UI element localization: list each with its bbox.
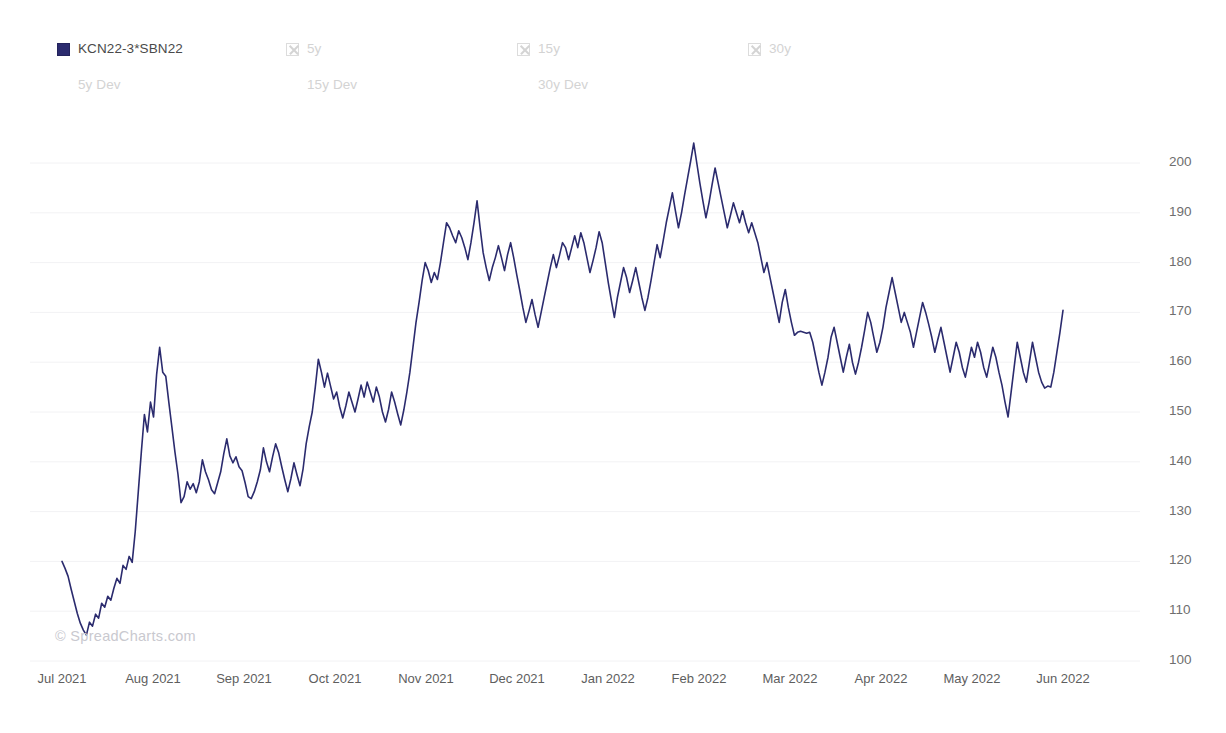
legend-item-30y[interactable]: 30y — [748, 38, 791, 60]
legend-item-30y-dev[interactable]: 30y Dev — [517, 74, 588, 96]
legend-row-deviations: 5y Dev15y Dev30y Dev — [0, 74, 1226, 100]
y-tick-label-150: 150 — [1169, 403, 1192, 418]
x-tick-label-jul-2021: Jul 2021 — [37, 671, 86, 686]
chart-plot-area: 100110120130140150160170180190200 Jul 20… — [0, 100, 1226, 733]
legend-item-kcn22-3-sbn22[interactable]: KCN22-3*SBN22 — [57, 38, 183, 60]
y-tick-label-100: 100 — [1169, 652, 1192, 667]
x-tick-label-nov-2021: Nov 2021 — [398, 671, 454, 686]
legend-item-5y-dev[interactable]: 5y Dev — [57, 74, 121, 96]
y-tick-label-160: 160 — [1169, 353, 1192, 368]
x-tick-label-jun-2022: Jun 2022 — [1036, 671, 1090, 686]
legend-item-label: 5y — [307, 42, 321, 56]
x-checkbox-icon — [286, 43, 299, 56]
legend-item-label: 30y Dev — [538, 78, 588, 92]
y-tick-label-190: 190 — [1169, 204, 1192, 219]
x-tick-label-oct-2021: Oct 2021 — [309, 671, 362, 686]
y-tick-label-130: 130 — [1169, 503, 1192, 518]
filled-square-swatch — [57, 43, 70, 56]
x-tick-label-may-2022: May 2022 — [943, 671, 1000, 686]
legend-row-series: KCN22-3*SBN225y15y30y — [0, 38, 1226, 64]
y-tick-label-200: 200 — [1169, 154, 1192, 169]
y-tick-label-170: 170 — [1169, 303, 1192, 318]
legend-item-label: 30y — [769, 42, 791, 56]
chart-legend: KCN22-3*SBN225y15y30y 5y Dev15y Dev30y D… — [0, 30, 1226, 100]
x-tick-label-aug-2021: Aug 2021 — [125, 671, 181, 686]
legend-item-label: 15y Dev — [307, 78, 357, 92]
y-tick-label-140: 140 — [1169, 453, 1192, 468]
y-tick-label-120: 120 — [1169, 552, 1192, 567]
legend-item-label: 5y Dev — [78, 78, 121, 92]
legend-item-15y[interactable]: 15y — [517, 38, 560, 60]
x-tick-label-jan-2022: Jan 2022 — [581, 671, 635, 686]
x-tick-label-apr-2022: Apr 2022 — [855, 671, 908, 686]
chart-gridlines — [30, 163, 1140, 661]
legend-item-15y-dev[interactable]: 15y Dev — [286, 74, 357, 96]
x-tick-label-dec-2021: Dec 2021 — [489, 671, 545, 686]
x-checkbox-icon — [517, 43, 530, 56]
chart-page: KCN22-3*SBN225y15y30y 5y Dev15y Dev30y D… — [0, 0, 1226, 733]
x-tick-label-sep-2021: Sep 2021 — [216, 671, 272, 686]
x-checkbox-icon — [748, 43, 761, 56]
y-tick-label-110: 110 — [1169, 602, 1191, 617]
x-tick-label-feb-2022: Feb 2022 — [672, 671, 727, 686]
x-tick-label-mar-2022: Mar 2022 — [763, 671, 818, 686]
legend-item-5y[interactable]: 5y — [286, 38, 321, 60]
y-tick-label-180: 180 — [1169, 254, 1192, 269]
legend-item-label: 15y — [538, 42, 560, 56]
watermark: © SpreadCharts.com — [55, 628, 196, 644]
legend-item-label: KCN22-3*SBN22 — [78, 42, 183, 56]
